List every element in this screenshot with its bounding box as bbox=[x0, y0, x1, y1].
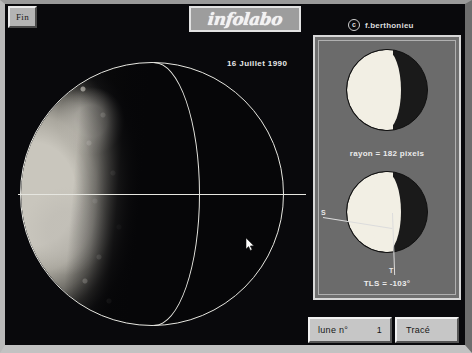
label-s: S bbox=[321, 209, 326, 216]
phase-diagram-tls: S T TLS = -103° bbox=[319, 169, 455, 295]
phase-diagram-radius: rayon = 182 pixels bbox=[319, 45, 455, 167]
phase-disc-1-terminator bbox=[371, 50, 401, 130]
moon-image-view[interactable] bbox=[18, 54, 306, 332]
tls-caption: TLS = -103° bbox=[319, 279, 455, 288]
phase-disc-1-wrap bbox=[319, 45, 455, 141]
copyright-name: f.berthonieu bbox=[365, 21, 414, 30]
lune-number-label: lune n° bbox=[318, 325, 348, 335]
infolabo-logo-text: infolabo bbox=[207, 9, 283, 29]
copyright: c f.berthonieu bbox=[348, 19, 414, 31]
radius-caption: rayon = 182 pixels bbox=[319, 149, 455, 158]
phase-disc-2-terminator bbox=[371, 172, 401, 252]
phase-disc-2 bbox=[346, 171, 428, 253]
lune-number-value: 1 bbox=[377, 325, 382, 335]
phase-disc-2-wrap: S T bbox=[319, 169, 455, 265]
copyright-icon: c bbox=[348, 19, 360, 31]
phase-disc-1 bbox=[346, 49, 428, 131]
equator-line-overlay bbox=[18, 194, 306, 195]
measurement-panel: rayon = 182 pixels S T TLS = -103° bbox=[313, 35, 461, 300]
mouse-cursor-icon bbox=[246, 238, 255, 251]
measurement-panel-inner: rayon = 182 pixels S T TLS = -103° bbox=[318, 40, 456, 295]
application-window: Fin infolabo c f.berthonieu 16 Juillet 1… bbox=[0, 0, 472, 353]
label-t: T bbox=[389, 267, 393, 274]
lune-number-button[interactable]: lune n° 1 bbox=[308, 317, 392, 343]
infolabo-logo: infolabo bbox=[189, 6, 301, 32]
trace-button[interactable]: Tracé bbox=[395, 317, 459, 343]
fin-button[interactable]: Fin bbox=[8, 6, 37, 28]
work-canvas: Fin infolabo c f.berthonieu 16 Juillet 1… bbox=[5, 4, 465, 345]
